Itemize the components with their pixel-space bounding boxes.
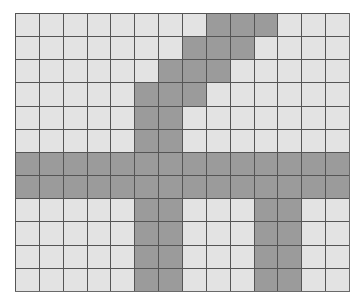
grid-cell-filled: [158, 129, 182, 152]
grid-cell-empty: [39, 245, 63, 268]
grid-cell-empty: [87, 59, 111, 82]
grid-cell-empty: [15, 129, 39, 152]
grid-cell-filled: [134, 106, 158, 129]
grid-cell-empty: [39, 129, 63, 152]
grid-cell-empty: [301, 13, 325, 36]
grid-cell-filled: [206, 36, 230, 59]
grid-cell-filled: [134, 268, 158, 291]
grid-cell-filled: [277, 268, 301, 291]
grid-cell-filled: [134, 152, 158, 175]
grid-cell-filled: [63, 175, 87, 198]
grid-cell-empty: [110, 245, 134, 268]
grid-cell-filled: [63, 152, 87, 175]
grid-cell-filled: [206, 13, 230, 36]
grid-cell-empty: [87, 198, 111, 221]
grid-cell-empty: [39, 59, 63, 82]
grid-cell-empty: [230, 82, 254, 105]
grid-cell-empty: [277, 36, 301, 59]
grid-cell-filled: [254, 221, 278, 244]
grid-cell-empty: [301, 198, 325, 221]
grid-cell-filled: [87, 175, 111, 198]
grid-cell-empty: [206, 245, 230, 268]
grid-cell-empty: [134, 13, 158, 36]
grid-cell-filled: [230, 175, 254, 198]
grid-cell-empty: [301, 129, 325, 152]
grid-cell-empty: [39, 13, 63, 36]
grid-cell-empty: [325, 36, 349, 59]
grid-cell-empty: [254, 59, 278, 82]
grid-cell-empty: [39, 106, 63, 129]
grid-cell-empty: [158, 13, 182, 36]
grid-cell-empty: [63, 82, 87, 105]
grid-cell-empty: [182, 268, 206, 291]
grid-cell-empty: [110, 59, 134, 82]
grid-cell-filled: [134, 221, 158, 244]
grid-cell-empty: [15, 59, 39, 82]
grid-cell-empty: [158, 36, 182, 59]
grid-cell-empty: [230, 268, 254, 291]
grid-cell-empty: [182, 245, 206, 268]
grid-cell-empty: [325, 59, 349, 82]
grid-cell-filled: [110, 152, 134, 175]
grid-cell-filled: [158, 268, 182, 291]
grid-cell-filled: [325, 175, 349, 198]
grid-cell-filled: [182, 36, 206, 59]
grid-cell-empty: [277, 129, 301, 152]
grid-cell-empty: [39, 36, 63, 59]
grid-cell-filled: [301, 152, 325, 175]
grid-cell-empty: [87, 221, 111, 244]
grid-cell-empty: [87, 268, 111, 291]
grid-cell-filled: [277, 152, 301, 175]
grid-cell-empty: [87, 106, 111, 129]
grid-cell-filled: [254, 152, 278, 175]
grid-cell-empty: [110, 106, 134, 129]
diagram-canvas: [0, 0, 362, 303]
grid-cell-filled: [158, 245, 182, 268]
grid-cell-filled: [182, 59, 206, 82]
grid-cell-empty: [277, 13, 301, 36]
grid-cell-empty: [206, 82, 230, 105]
grid-cell-filled: [254, 268, 278, 291]
grid-cell-empty: [63, 268, 87, 291]
grid-cell-filled: [39, 175, 63, 198]
grid-cell-empty: [325, 221, 349, 244]
grid-cell-filled: [206, 59, 230, 82]
grid-cell-empty: [63, 198, 87, 221]
grid-cell-empty: [15, 268, 39, 291]
grid-cell-empty: [254, 82, 278, 105]
grid-cell-empty: [230, 221, 254, 244]
grid-cell-empty: [182, 198, 206, 221]
grid-cell-empty: [325, 13, 349, 36]
grid-cell-empty: [110, 129, 134, 152]
grid-cell-empty: [182, 129, 206, 152]
grid-cell-empty: [110, 82, 134, 105]
grid-cell-filled: [206, 175, 230, 198]
grid-cell-filled: [158, 221, 182, 244]
grid-cell-filled: [158, 59, 182, 82]
grid-cell-empty: [230, 59, 254, 82]
grid-cell-filled: [254, 245, 278, 268]
grid-cell-empty: [254, 36, 278, 59]
grid-cell-empty: [134, 59, 158, 82]
grid-cell-empty: [301, 106, 325, 129]
grid-cell-empty: [301, 36, 325, 59]
grid-cell-empty: [206, 268, 230, 291]
grid-cell-empty: [182, 13, 206, 36]
grid-cell-empty: [325, 268, 349, 291]
grid-cell-empty: [15, 221, 39, 244]
grid-cell-filled: [39, 152, 63, 175]
grid-cell-empty: [206, 198, 230, 221]
grid-cell-filled: [206, 152, 230, 175]
grid-cell-filled: [158, 152, 182, 175]
grid-cell-filled: [277, 245, 301, 268]
grid-cell-empty: [63, 245, 87, 268]
grid-cell-empty: [206, 221, 230, 244]
grid-cell-empty: [15, 198, 39, 221]
grid-cell-filled: [182, 82, 206, 105]
grid-cell-filled: [230, 13, 254, 36]
grid-cell-empty: [182, 106, 206, 129]
grid-cell-empty: [230, 198, 254, 221]
grid-cell-empty: [325, 82, 349, 105]
grid-cell-empty: [110, 268, 134, 291]
grid-cell-empty: [39, 82, 63, 105]
